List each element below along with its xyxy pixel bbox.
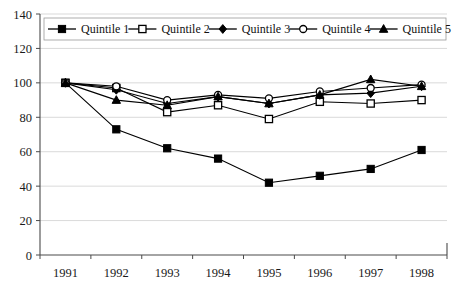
x-axis-tick-label: 1992 [104, 266, 129, 280]
data-point-marker-open-circle [367, 85, 374, 92]
data-point-marker-filled-square [113, 126, 120, 133]
data-point-marker-filled-square [316, 172, 323, 179]
x-axis-tick-label: 1993 [155, 266, 180, 280]
y-axis-tick-label: 120 [13, 42, 32, 56]
x-axis-tick-label: 1997 [358, 266, 383, 280]
legend-item-label: Quintile 2 [161, 22, 209, 36]
y-axis-tick-label: 20 [20, 214, 33, 228]
data-point-marker-filled-square [58, 25, 65, 32]
data-point-marker-open-square [367, 100, 374, 107]
x-axis-tick-label: 1998 [409, 266, 434, 280]
data-series-layer [61, 75, 425, 186]
data-point-marker-open-square [418, 96, 425, 103]
chart-container: 020406080100120140 199119921993199419951… [0, 0, 456, 288]
data-point-marker-open-circle [300, 26, 307, 33]
axes [36, 14, 447, 259]
x-axis-tick-label: 1994 [206, 266, 232, 280]
y-axis-tick-label: 100 [13, 76, 32, 90]
data-point-marker-filled-square [367, 165, 374, 172]
data-point-marker-open-square [139, 25, 146, 32]
y-axis-tick-label: 60 [20, 145, 33, 159]
y-axis-tick-label: 140 [13, 8, 32, 22]
data-point-marker-open-circle [113, 83, 120, 90]
y-axis-tick-label: 40 [20, 180, 33, 194]
x-axis-tick-label: 1996 [307, 266, 332, 280]
data-point-marker-open-square [164, 109, 171, 116]
y-axis-tick-label: 80 [20, 111, 33, 125]
y-axis-tick-label: 0 [26, 249, 32, 263]
data-point-marker-filled-square [418, 146, 425, 153]
legend-item-label: Quintile 3 [242, 22, 290, 36]
grid-lines [40, 14, 447, 221]
legend-item-label: Quintile 1 [81, 22, 129, 36]
data-point-marker-filled-square [164, 145, 171, 152]
line-chart: 020406080100120140 199119921993199419951… [0, 0, 456, 288]
legend-item-label: Quintile 4 [322, 22, 370, 36]
x-axis-tick-label: 1991 [53, 266, 78, 280]
data-point-marker-filled-square [265, 179, 272, 186]
data-point-marker-filled-triangle [367, 75, 375, 83]
data-point-marker-open-square [214, 102, 221, 109]
y-axis-tick-labels: 020406080100120140 [13, 8, 32, 263]
x-axis-tick-label: 1995 [256, 266, 281, 280]
x-axis-tick-labels: 19911992199319941995199619971998 [53, 266, 434, 280]
data-point-marker-open-square [265, 115, 272, 122]
legend-item-label: Quintile 5 [403, 22, 451, 36]
chart-legend[interactable]: Quintile 1Quintile 2Quintile 3Quintile 4… [44, 18, 451, 40]
data-point-marker-filled-square [214, 155, 221, 162]
